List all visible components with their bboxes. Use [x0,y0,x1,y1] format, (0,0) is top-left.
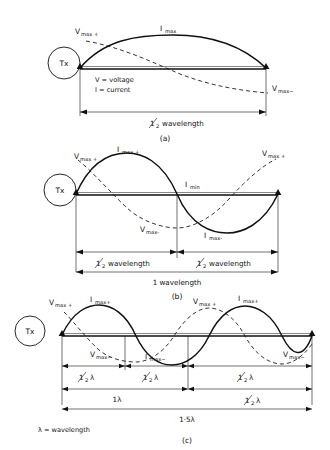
label-v-max-plus-a: V max + [75,27,98,37]
svg-text:I: I [145,352,147,361]
legend-a: V = voltage I = current [95,76,134,94]
label-v-max-minus-b: V max- [140,225,159,235]
caption-c: (c) [182,436,192,445]
svg-text:max−: max− [289,354,305,360]
svg-text:λ: λ [256,396,261,405]
dim-text-half-wavelength-a: 1 2 wavelength [149,118,204,129]
svg-text:2: 2 [102,263,105,269]
caption-b: (b) [172,292,183,301]
tx-source-a: Tx [48,47,80,79]
svg-text:λ: λ [249,373,254,382]
svg-text:I: I [204,231,206,240]
lambda-footnote-c: λ = wavelength [38,426,90,434]
svg-text:max +: max + [122,149,139,155]
svg-text:max−: max− [150,356,166,362]
svg-text:wavelength: wavelength [209,259,251,268]
svg-text:2: 2 [203,263,206,269]
svg-text:max +: max + [199,301,216,307]
svg-text:I: I [160,24,162,33]
caption-a: (a) [160,134,171,143]
svg-text:λ: λ [154,373,159,382]
svg-text:2: 2 [251,400,254,406]
svg-text:min: min [190,184,200,190]
svg-text:V: V [193,297,198,306]
tx-label-c: Tx [25,327,36,336]
svg-text:max+: max+ [95,299,111,305]
svg-text:V = voltage: V = voltage [95,76,134,84]
label-i-min-b: I min [185,180,200,190]
tx-label-b: Tx [55,186,66,195]
dim-text-half-lambda-3-c: 1 2 λ [237,372,254,383]
label-i-max-plus-1-c: I max+ [90,295,111,305]
svg-text:max-: max- [209,235,222,241]
svg-text:2: 2 [156,123,159,129]
svg-text:I: I [117,145,119,154]
svg-text:V: V [283,350,288,359]
label-v-max-plus-2-c: V max + [193,297,216,307]
svg-text:max+: max+ [243,298,259,304]
label-v-max-minus-a: V max− [272,84,294,94]
transmission-line-a [77,63,270,69]
svg-text:wavelength: wavelength [162,119,204,128]
dim-text-one-lambda-c: 1λ [113,395,123,404]
svg-text:2: 2 [244,377,247,383]
panel-b: Tx V max + I max + I min V max + [44,145,285,301]
dim-text-half-lambda-1-c: 1 2 λ [78,372,95,383]
transmission-line-c [59,330,316,336]
svg-text:2: 2 [85,377,88,383]
standing-wave-figure: Tx V max + I max V max− V = voltage [0,0,330,450]
label-v-max-minus-1-c: V max− [90,350,112,360]
dim-text-half-lambda-4-c: 1 2 λ [244,395,261,406]
svg-text:2: 2 [149,377,152,383]
svg-text:I: I [185,180,187,189]
label-i-max-plus-2-c: I max+ [238,294,259,304]
dim-text-half-wavelength-right-b: 1 2 wavelength [196,258,251,269]
svg-text:max−: max− [278,88,294,94]
svg-text:wavelength: wavelength [108,259,150,268]
svg-text:λ: λ [90,373,95,382]
svg-text:max +: max + [268,153,285,159]
svg-text:max +: max + [55,302,72,308]
label-v-max-plus-right-b: V max + [262,149,285,159]
panel-c: Tx V max + I max+ V max + I max+ [15,294,315,445]
tx-source-c: Tx [15,316,45,346]
label-i-max-a: I max [160,24,176,34]
label-v-max-plus-left-b: V max + [74,152,97,162]
svg-text:max−: max− [96,354,112,360]
svg-text:V: V [90,350,95,359]
dimensions-c: 1 2 λ 1 2 λ 1 2 λ [62,336,312,424]
svg-text:V: V [74,152,79,161]
svg-text:V: V [75,27,80,36]
svg-text:max +: max + [81,31,98,37]
panel-a: Tx V max + I max V max− V = voltage [48,24,294,143]
svg-text:I: I [238,294,240,303]
svg-text:V: V [49,298,54,307]
dimensions-b: 1 2 wavelength 1 2 wavelength 1 waveleng… [76,195,278,287]
svg-text:max +: max + [80,156,97,162]
dim-text-half-wavelength-left-b: 1 2 wavelength [95,258,150,269]
svg-text:max-: max- [146,229,159,235]
dim-text-one-point-five-lambda-c: 1·5λ [179,415,195,424]
svg-text:I = current: I = current [95,86,131,94]
tx-label-a: Tx [59,59,70,68]
svg-text:V: V [272,84,277,93]
svg-text:V: V [262,149,267,158]
dim-text-one-wavelength-b: 1 wavelength [153,278,202,287]
label-v-max-plus-1-c: V max + [49,298,72,308]
svg-text:I: I [90,295,92,304]
svg-text:max: max [165,28,176,34]
svg-text:V: V [140,225,145,234]
current-curve-a [80,35,266,68]
dim-text-half-lambda-2-c: 1 2 λ [142,372,159,383]
tx-source-b: Tx [44,174,76,206]
